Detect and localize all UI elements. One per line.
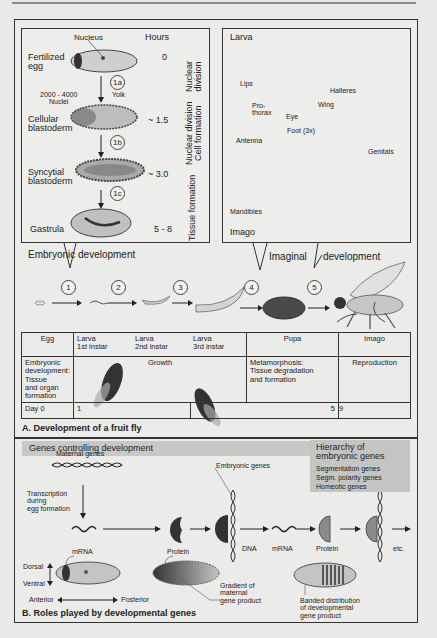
hierarchy-segmentation: Segmentation genes: [316, 465, 380, 472]
part-mandibles: Mandibles: [230, 208, 262, 215]
axis-anterior: Anterior: [29, 596, 54, 603]
flow-mrna-1: mRNA: [72, 548, 93, 555]
banded-label: Banded distribution of developmental gen…: [300, 597, 360, 619]
hierarchy-homeotic: Homeotic genes: [316, 483, 367, 490]
development-caption: development: [323, 252, 380, 263]
part-wing: Wing: [318, 101, 334, 108]
imaginal-caption: Imaginal: [269, 252, 307, 263]
stage-number-5: 5: [307, 280, 322, 295]
flow-etc: etc.: [393, 545, 404, 552]
egg-description: Embryonic development: Tissue and organ …: [22, 357, 74, 403]
development-table: Egg Larva 1st instar Larva 2nd instar La…: [21, 332, 411, 419]
imago-description: Reproduction: [339, 357, 411, 403]
day-9: 9: [339, 403, 411, 419]
embryonic-development-caption: Embryonic development: [28, 250, 135, 261]
stage-number-3: 3: [173, 280, 188, 295]
day-0: Day 0: [22, 403, 74, 419]
header-larva-3: Larva 3rd instar: [190, 333, 247, 357]
section-a-title: A. Development of a fruit fly: [22, 424, 142, 433]
section-b-title: B. Roles played by developmental genes: [22, 609, 196, 618]
header-larva-2: Larva 2nd instar: [132, 333, 190, 357]
stage-number-4: 4: [244, 280, 259, 295]
flow-protein-2: Protein: [316, 545, 338, 552]
part-eye: Eye: [286, 113, 298, 120]
gradient-label: Gradient of maternal gene product: [220, 582, 261, 604]
axis-ventral: Ventral: [23, 580, 45, 587]
part-prothorax: Pro- thorax: [252, 102, 271, 117]
flow-protein-1: Protein: [167, 548, 189, 555]
day-5: 5: [190, 403, 339, 419]
hierarchy-title: Hierarchy of embryonic genes: [316, 443, 385, 462]
header-larva-1: Larva 1st instar: [74, 333, 133, 357]
day-1: 1: [74, 403, 191, 419]
larva-description: Growth: [74, 357, 247, 403]
pupa-description: Metamorphosis: Tissue degradation and fo…: [247, 357, 339, 403]
stage-number-1: 1: [61, 280, 76, 295]
part-foot: Foot (3x): [287, 127, 315, 134]
part-lips: Lips: [240, 80, 253, 87]
axis-posterior: Posterior: [121, 596, 149, 603]
hierarchy-polarity: Segm. polarity genes: [316, 474, 382, 481]
transcription-label: Transcription during egg formation: [27, 490, 70, 512]
axis-dorsal: Dorsal: [23, 563, 43, 570]
flow-dna: DNA: [242, 545, 257, 552]
part-halteres: Halteres: [330, 87, 356, 94]
imago-label: Imago: [230, 228, 255, 237]
part-antenna: Antenna: [236, 137, 262, 144]
stage-number-2: 2: [111, 280, 126, 295]
maternal-genes-label: Maternal genes: [56, 450, 104, 457]
embryonic-genes-label: Embryonic genes: [216, 462, 270, 469]
section-divider: [14, 437, 418, 439]
flow-mrna-2: mRNA: [272, 545, 293, 552]
larva-label: Larva: [230, 33, 253, 42]
header-imago: Imago: [339, 333, 411, 357]
header-egg: Egg: [22, 333, 74, 357]
header-pupa: Pupa: [247, 333, 339, 357]
part-genitals: Genitals: [368, 148, 394, 155]
